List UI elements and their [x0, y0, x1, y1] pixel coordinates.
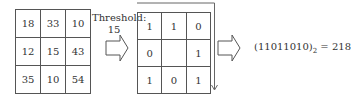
cell: 1 [186, 40, 210, 67]
binary-grid: 110 01 101 [137, 12, 211, 94]
cell: 1 [138, 67, 162, 94]
cell: 1 [186, 67, 210, 94]
decimal-value: = 218 [317, 41, 351, 52]
cell: 0 [138, 40, 162, 67]
cell: 1 [162, 13, 186, 40]
lbp-result: (11011010)2 = 218 [254, 41, 351, 57]
cell: 0 [162, 67, 186, 94]
block-arrow-icon [218, 35, 240, 61]
binary-code: (11011010) [254, 41, 313, 52]
block-arrow-icon [106, 35, 128, 61]
center-cell [162, 40, 186, 67]
cell: 1 [138, 13, 162, 40]
cell: 0 [186, 13, 210, 40]
